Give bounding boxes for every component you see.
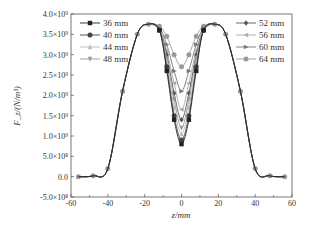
y-tick-label: 3.5×10⁹ <box>43 30 69 39</box>
legend: 36 mm40 mm44 mm48 mm52 mm56 mm60 mm64 mm <box>80 18 284 64</box>
y-tick-label: 2.0×10⁹ <box>43 91 69 100</box>
x-tick-label: -20 <box>139 199 150 208</box>
legend-item: 64 mm <box>259 54 284 64</box>
y-tick-label: 1.0×10⁹ <box>43 132 69 141</box>
legend-item: 48 mm <box>103 54 128 64</box>
chart: -60-40-200204060-5.0×10⁸0.05.0×10⁸1.0×10… <box>0 0 309 235</box>
y-tick-label: 2.5×10⁹ <box>43 71 69 80</box>
x-tick-label: 20 <box>214 199 222 208</box>
y-tick-label: -5.0×10⁸ <box>40 193 68 202</box>
legend-item: 44 mm <box>103 42 128 52</box>
x-axis-title: z/mm <box>170 210 191 220</box>
legend-item: 36 mm <box>103 18 128 28</box>
legend-item: 56 mm <box>259 30 284 40</box>
y-tick-label: 4.0×10⁹ <box>43 10 69 19</box>
x-tick-label: -40 <box>102 199 113 208</box>
legend-item: 60 mm <box>259 42 284 52</box>
y-tick-label: 1.5×10⁹ <box>43 112 69 121</box>
y-tick-label: 5.0×10⁸ <box>43 152 69 161</box>
y-axis-title: F_z/(N/m³) <box>12 86 22 127</box>
y-tick-label: 0.0 <box>58 173 68 182</box>
x-tick-label: 60 <box>288 199 296 208</box>
y-tick-label: 3.0×10⁹ <box>43 51 69 60</box>
x-tick-label: 40 <box>251 199 259 208</box>
legend-item: 52 mm <box>259 18 284 28</box>
x-tick-label: 0 <box>180 199 184 208</box>
legend-item: 40 mm <box>103 30 128 40</box>
